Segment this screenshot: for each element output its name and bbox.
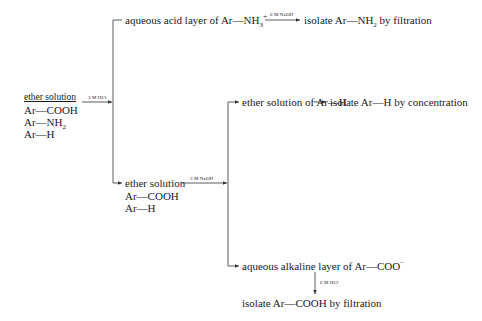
ether-solution-2-title: ether solution (125, 177, 185, 189)
aqueous-alkaline-layer: aqueous alkaline layer of Ar—COO− (242, 260, 404, 272)
ether-solution-2-neutral: Ar—H (125, 202, 156, 214)
ether-solution-2-acid: Ar—COOH (125, 190, 179, 202)
start-compound-acid: Ar—COOH (24, 104, 78, 116)
start-title: ether solution (24, 91, 76, 103)
isolate-amine: isolate Ar—NH2 by filtration (304, 14, 432, 26)
isolate-neutral: isolate Ar—H by concentration (330, 96, 468, 108)
reagent-3m-hcl: 3 M HCl (88, 95, 106, 101)
aqueous-acid-layer: aqueous acid layer of Ar—NH3+ (125, 14, 267, 26)
reagent-6m-hcl: 6 M HCl (320, 280, 338, 286)
isolate-acid: isolate Ar—COOH by filtration (242, 297, 382, 309)
reagent-3m-naoh: 3 M NaOH (190, 176, 213, 182)
start-compound-neutral: Ar—H (24, 128, 55, 140)
start-compound-amine: Ar—NH2 (24, 116, 66, 128)
reagent-6m-naoh: 6 M NaOH (270, 12, 293, 18)
diagram-connectors (0, 0, 482, 321)
